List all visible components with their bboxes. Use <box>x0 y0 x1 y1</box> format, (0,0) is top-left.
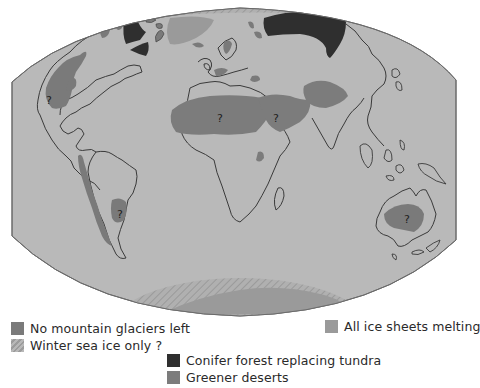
greener-deserts-swatch <box>167 371 180 384</box>
legend-item-no-glaciers: No mountain glaciers left <box>11 320 190 336</box>
legend-label-ice-sheets: All ice sheets melting <box>344 319 480 334</box>
legend-label-conifer: Conifer forest replacing tundra <box>186 353 381 368</box>
no-glaciers-swatch <box>11 322 24 335</box>
uncertainty-mark-sahara: ? <box>217 112 223 125</box>
world-map: ? ? ? ? ? <box>0 0 475 320</box>
legend-item-ice-sheets: All ice sheets melting <box>325 318 480 334</box>
uncertainty-mark-north-america: ? <box>46 94 52 107</box>
uncertainty-mark-australia: ? <box>404 213 410 226</box>
legend-label-no-glaciers: No mountain glaciers left <box>30 321 190 336</box>
legend-item-deserts: Greener deserts <box>167 369 289 385</box>
legend-item-conifer: Conifer forest replacing tundra <box>167 352 381 368</box>
glacier-yukon <box>116 20 122 30</box>
ice-sheets-swatch <box>325 320 338 333</box>
legend-label-deserts: Greener deserts <box>186 370 289 385</box>
legend-label-sea-ice: Winter sea ice only ? <box>30 338 162 353</box>
legend-item-sea-ice: Winter sea ice only ? <box>11 337 162 353</box>
uncertainty-mark-arabia: ? <box>273 112 279 125</box>
uncertainty-mark-south-america: ? <box>117 208 123 221</box>
conifer-swatch <box>167 354 180 367</box>
sea-ice-hatch-swatch <box>11 339 24 352</box>
